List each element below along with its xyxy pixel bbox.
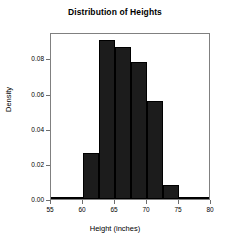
x-tick-mark xyxy=(82,200,83,204)
histogram-bar xyxy=(131,62,147,199)
chart-title: Distribution of Heights xyxy=(0,7,230,17)
histogram-bar xyxy=(83,153,99,199)
x-tick-label: 80 xyxy=(200,206,220,213)
x-tick-label: 75 xyxy=(168,206,188,213)
x-tick-label: 60 xyxy=(72,206,92,213)
y-tick-label: 0.06 xyxy=(8,91,44,98)
x-axis-title: Height (inches) xyxy=(0,224,230,233)
histogram-bar xyxy=(99,40,115,199)
y-tick-label: 0.00 xyxy=(8,196,44,203)
y-axis-title: Density xyxy=(4,70,13,130)
x-tick-mark xyxy=(210,200,211,204)
x-tick-mark xyxy=(146,200,147,204)
histogram-bar xyxy=(51,197,83,199)
histogram-bar xyxy=(163,185,179,199)
x-tick-label: 55 xyxy=(40,206,60,213)
x-tick-mark xyxy=(50,200,51,204)
histogram-bar xyxy=(179,197,210,199)
x-tick-mark xyxy=(114,200,115,204)
histogram-figure: Distribution of Heights 556065707580 0.0… xyxy=(0,0,230,246)
x-tick-label: 70 xyxy=(136,206,156,213)
x-tick-mark xyxy=(178,200,179,204)
y-tick-mark xyxy=(46,200,50,201)
y-tick-label: 0.04 xyxy=(8,126,44,133)
histogram-bar xyxy=(147,101,163,199)
plot-area xyxy=(50,33,210,200)
x-tick-label: 65 xyxy=(104,206,124,213)
y-tick-mark xyxy=(46,130,50,131)
histogram-bars xyxy=(51,34,209,199)
y-tick-mark xyxy=(46,95,50,96)
y-tick-mark xyxy=(46,59,50,60)
y-tick-label: 0.08 xyxy=(8,55,44,62)
histogram-bar xyxy=(115,47,131,199)
y-tick-mark xyxy=(46,165,50,166)
y-tick-label: 0.02 xyxy=(8,161,44,168)
